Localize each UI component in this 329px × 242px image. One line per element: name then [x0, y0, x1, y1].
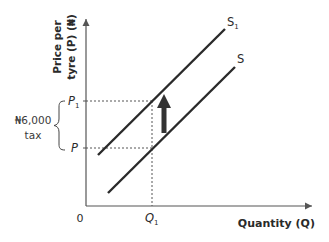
tax-word-label: tax — [25, 129, 42, 141]
origin-label: 0 — [77, 212, 84, 225]
s1-curve-label: S1 — [227, 15, 239, 31]
upward-shift-arrow-icon — [157, 94, 171, 133]
p1-label: P1 — [68, 94, 79, 110]
supply-curve-s1 — [98, 29, 225, 155]
y-axis-title-line1: Price per — [51, 20, 63, 74]
supply-tax-diagram: Price per tyre (P) (₦) 0 Quantity (Q) S1… — [0, 0, 329, 242]
tax-amount-label: ₦6,000 — [15, 114, 52, 126]
y-axis-title: Price per tyre (P) (₦) — [51, 14, 77, 80]
s-curve-label: S — [237, 52, 244, 66]
p-label: P — [71, 141, 78, 155]
tax-brace-icon — [54, 101, 65, 150]
y-axis-title-line2: tyre (P) (₦) — [65, 14, 77, 80]
q1-label: Q1 — [145, 211, 159, 227]
x-axis-title: Quantity (Q) — [238, 217, 315, 230]
supply-curve-s — [108, 67, 235, 193]
